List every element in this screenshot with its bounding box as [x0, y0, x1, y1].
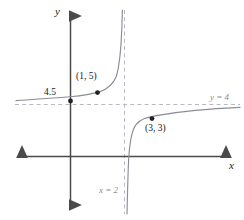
horizontal-asymptote-label: y = 4 — [210, 93, 229, 102]
curve-left-branch — [16, 10, 122, 101]
point-label-3-3: (3, 3) — [145, 124, 166, 134]
curve-right-branch — [127, 107, 240, 214]
graph-canvas — [0, 0, 244, 220]
x-axis-label: x — [229, 160, 234, 171]
y-intercept-label: 4.5 — [44, 88, 56, 98]
point-marker-1-5 — [95, 90, 100, 95]
point-label-1-5: (1, 5) — [76, 72, 97, 82]
y-axis-label: y — [55, 6, 60, 17]
graph-figure: y x 4.5 (1, 5) (3, 3) y = 4 x = 2 — [0, 0, 244, 220]
vertical-asymptote-label: x = 2 — [99, 186, 118, 195]
point-marker-3-3 — [150, 116, 155, 121]
point-marker-y-intercept — [68, 99, 73, 104]
